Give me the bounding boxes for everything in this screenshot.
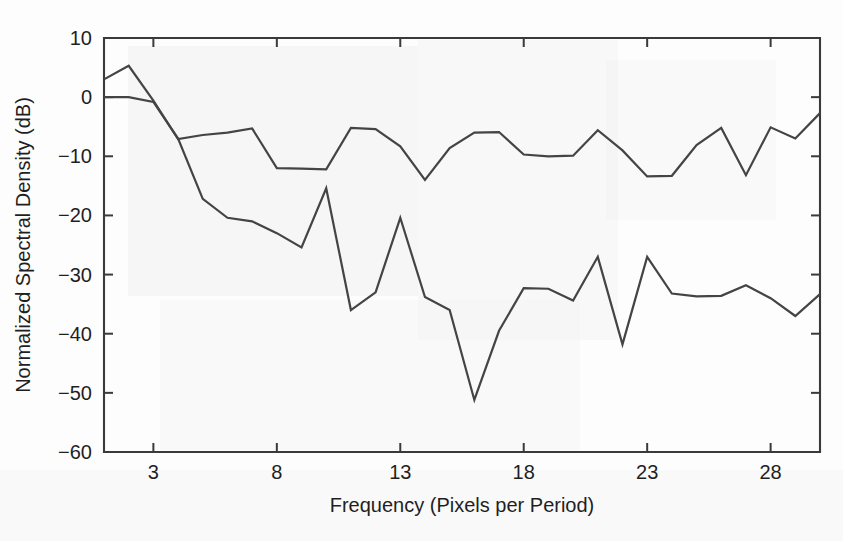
series-line-upper	[104, 66, 820, 180]
x-tick-label: 3	[148, 461, 159, 483]
x-tick-label: 18	[513, 461, 535, 483]
y-tick-label: −40	[58, 323, 92, 345]
x-axis-label: Frequency (Pixels per Period)	[330, 494, 595, 516]
y-axis-tick-labels: 100−10−20−30−40−50−60	[58, 27, 92, 463]
x-axis-ticks	[153, 38, 770, 452]
y-tick-label: −20	[58, 204, 92, 226]
data-series-group	[104, 66, 820, 400]
y-tick-label: −30	[58, 264, 92, 286]
y-tick-label: −10	[58, 145, 92, 167]
y-tick-label: 0	[81, 86, 92, 108]
y-axis-label: Normalized Spectral Density (dB)	[12, 97, 34, 393]
plot-frame	[104, 38, 820, 452]
x-tick-label: 23	[636, 461, 658, 483]
y-tick-label: 10	[70, 27, 92, 49]
spectral-density-chart: 3813182328 100−10−20−30−40−50−60 Frequen…	[0, 0, 843, 541]
series-line-lower	[104, 97, 820, 400]
x-tick-label: 8	[271, 461, 282, 483]
figure-canvas: 3813182328 100−10−20−30−40−50−60 Frequen…	[0, 0, 843, 541]
y-tick-label: −50	[58, 382, 92, 404]
x-tick-label: 13	[389, 461, 411, 483]
y-tick-label: −60	[58, 441, 92, 463]
x-tick-label: 28	[759, 461, 781, 483]
x-axis-tick-labels: 3813182328	[148, 461, 782, 483]
